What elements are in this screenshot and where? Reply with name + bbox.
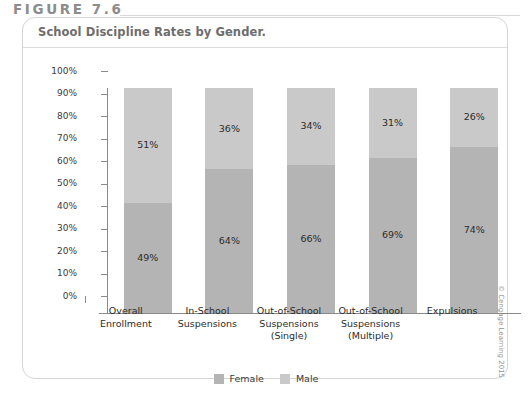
figure-card: School Discipline Rates by Gender. 100%9… [22,17,508,379]
category-label-line: Suspensions [323,318,419,331]
bar-value-label-male: 31% [369,117,417,128]
stacked-bar: 34%66% [287,88,335,313]
y-axis-tick-label: 30% [41,224,77,233]
bar-segment-female: 64% [205,169,253,313]
legend-item: Female [214,373,264,384]
x-axis-category-label: Expulsions [404,305,500,318]
bar-segment-male: 36% [205,88,253,169]
bar-segment-female: 74% [450,147,498,314]
bar-value-label-male: 34% [287,120,335,131]
plot-area: 51%49%36%64%34%66%31%69%26%74% [107,88,515,313]
bar-value-label-female: 66% [287,233,335,244]
stacked-bar: 26%74% [450,88,498,313]
bar-value-label-female: 69% [369,229,417,240]
y-axis-tick-label: 0% [41,292,77,301]
copyright-credit: © Cengage Learning 2015 [497,285,505,378]
bar-segment-female: 66% [287,165,335,314]
y-axis-tick-label: 90% [41,89,77,98]
bar-segment-female: 69% [369,158,417,313]
y-axis-tick-label: 70% [41,134,77,143]
y-axis-tick-label: 80% [41,112,77,121]
bar-value-label-female: 49% [124,252,172,263]
bar-segment-male: 34% [287,88,335,165]
chart-legend: FemaleMale [23,373,509,384]
figure-number-header: FIGURE 7.6 [13,1,124,17]
stacked-bar: 36%64% [205,88,253,313]
bar-value-label-female: 64% [205,235,253,246]
title-divider [23,47,507,48]
legend-item: Male [280,373,319,384]
legend-swatch [280,374,290,384]
bar-value-label-female: 74% [450,224,498,235]
category-label-line: Expulsions [404,305,500,318]
chart-title: School Discipline Rates by Gender. [38,25,266,39]
figure-header-rule [120,15,520,16]
y-axis-tick-label: 50% [41,179,77,188]
x-axis-tick [85,296,86,303]
bar-segment-male: 26% [450,88,498,147]
y-axis-tick-label: 60% [41,157,77,166]
legend-label: Male [296,373,319,384]
stacked-bar: 31%69% [369,88,417,313]
legend-label: Female [230,373,264,384]
y-axis-tick-label: 20% [41,247,77,256]
bar-segment-female: 49% [124,203,172,313]
y-axis-tick-label: 10% [41,269,77,278]
y-axis-tick-label: 40% [41,202,77,211]
bar-value-label-male: 26% [450,111,498,122]
bar-value-label-male: 36% [205,123,253,134]
category-label-line: (Multiple) [323,330,419,343]
legend-swatch [214,374,224,384]
bar-segment-male: 51% [124,88,172,203]
y-axis-tick-label: 100% [41,67,77,76]
bar-segment-male: 31% [369,88,417,158]
y-axis-tick [101,71,108,72]
bar-value-label-male: 51% [124,139,172,150]
stacked-bar: 51%49% [124,88,172,313]
